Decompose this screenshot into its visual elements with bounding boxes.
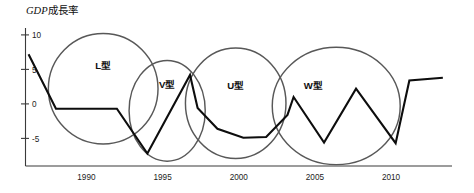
y-axis: 1050-5 — [21, 28, 42, 166]
chart-canvas: GDP成長率 1050-5 19901995200020052010 L型V型U… — [0, 0, 474, 193]
y-tick-label: 0 — [32, 100, 37, 109]
y-tick-group: 1050-5 — [21, 31, 42, 144]
x-tick-label: 2000 — [230, 173, 249, 182]
x-tick-label: 1990 — [77, 173, 96, 182]
phase-label-v: V型 — [159, 79, 175, 90]
phase-circle-u — [185, 48, 286, 158]
x-tick-label: 2005 — [306, 173, 325, 182]
gdp-growth-chart: GDP成長率 1050-5 19901995200020052010 L型V型U… — [0, 0, 474, 193]
x-tick-label: 1995 — [153, 173, 172, 182]
y-tick-label: 10 — [32, 31, 42, 40]
chart-title: GDP成長率 — [26, 4, 78, 16]
phase-label-w: W型 — [304, 80, 323, 91]
x-tick-group: 19901995200020052010 — [77, 173, 400, 182]
phase-circle-group — [48, 34, 400, 165]
y-tick-label: -5 — [32, 135, 40, 144]
x-tick-label: 2010 — [382, 173, 401, 182]
chart-title-cjk: 成長率 — [48, 4, 78, 16]
chart-title-latin: GDP — [26, 5, 48, 16]
series-line-0 — [29, 54, 443, 153]
x-axis: 19901995200020052010 — [26, 166, 453, 182]
phase-circle-v — [129, 60, 205, 161]
phase-circle-l — [48, 34, 158, 144]
phase-label-u: U型 — [227, 80, 244, 91]
phase-label-group: L型V型U型W型 — [95, 60, 323, 92]
phase-label-l: L型 — [95, 60, 111, 71]
series-group — [29, 54, 443, 153]
